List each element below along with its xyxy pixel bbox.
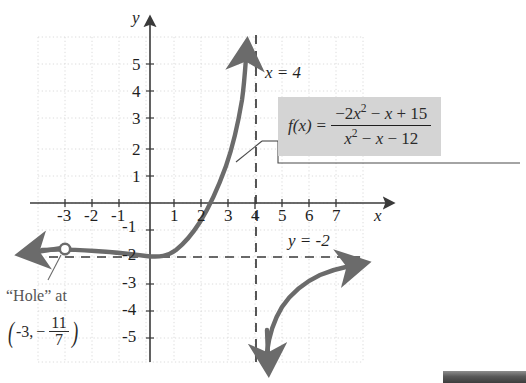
y-tick-label--5: -5: [122, 328, 136, 345]
function-equals-sign: =: [317, 116, 327, 136]
x-tick-label-6: 6: [305, 207, 314, 224]
numerator-variable: x: [353, 104, 361, 123]
numerator-operator: −: [367, 104, 385, 123]
denominator-operator: −: [358, 129, 376, 148]
y-tick-label-5: 5: [132, 56, 141, 73]
function-fraction: −2x2 − x + 15 x2 − x − 12: [331, 102, 431, 150]
vertical-asymptote-label: x = 4: [265, 64, 301, 81]
y-tick-label-4: 4: [132, 83, 141, 100]
hole-label-text: “Hole” at: [6, 288, 67, 304]
curve-right-branch: [267, 266, 350, 352]
x-tick-label--2: -2: [84, 207, 98, 224]
function-formula-callout: f(x) = −2x2 − x + 15 x2 − x − 12: [278, 97, 441, 156]
curve-right-down-arrow: [267, 330, 268, 356]
page-edge-artifact: [443, 371, 526, 383]
x-axis-label: x: [374, 207, 382, 224]
y-tick-label-3: 3: [132, 110, 141, 127]
y-tick-label-1: 1: [132, 168, 141, 185]
function-numerator: −2x2 − x + 15: [331, 102, 431, 126]
y-tick-label-2: 2: [132, 141, 141, 158]
y-tick-label--3: -3: [122, 274, 136, 291]
numerator-lead: −2: [335, 104, 353, 123]
x-tick-label-7: 7: [332, 207, 341, 224]
curve-left-branch: [42, 58, 246, 257]
x-tick-label-3: 3: [224, 207, 233, 224]
hole-fraction-numerator: 11: [49, 315, 68, 332]
rational-function-figure: -3 -2 -1 1 2 3 4 5 6 7 5 4 3 2 1 -1 -2 -…: [0, 0, 526, 383]
denominator-variable: x: [344, 129, 352, 148]
hole-leader-line: [48, 255, 61, 280]
x-tick-label--3: -3: [57, 207, 71, 224]
denominator-tail: − 12: [383, 129, 418, 148]
x-tick-label-4: 4: [251, 207, 260, 224]
function-denominator: x2 − x − 12: [340, 126, 422, 149]
y-tick-label--2: -2: [122, 246, 136, 263]
y-tick-label--4: -4: [122, 301, 136, 318]
hole-open-circle: [60, 244, 70, 254]
x-tick-label-1: 1: [170, 207, 179, 224]
hole-open-paren: (: [8, 317, 14, 347]
function-name: f(x): [288, 116, 312, 136]
horizontal-asymptote-label: y = -2: [288, 232, 330, 249]
hole-coordinate: ( -3, − 11 7 ): [6, 315, 80, 349]
hole-x-part: -3,: [16, 324, 33, 340]
hole-close-paren: ): [72, 317, 78, 347]
hole-fraction: 11 7: [49, 315, 68, 349]
hole-fraction-denominator: 7: [53, 332, 65, 348]
numerator-tail: + 15: [392, 104, 427, 123]
y-tick-label--1: -1: [122, 218, 136, 235]
x-tick-label-2: 2: [197, 207, 206, 224]
hole-minus-sign: −: [36, 324, 45, 340]
x-tick-label-5: 5: [278, 207, 287, 224]
y-axis-label: y: [132, 9, 140, 26]
